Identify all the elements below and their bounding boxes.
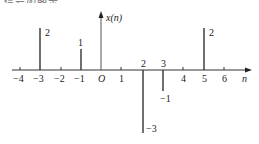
tick-label-p5: 5 — [202, 74, 207, 84]
y-axis-label: x(n) — [106, 13, 122, 23]
tick-label-m3: −3 — [33, 74, 44, 84]
tick-label-origin: O — [98, 74, 105, 84]
value-label-n-3: −1 — [160, 94, 171, 104]
tick-label-m1: −1 — [74, 74, 85, 84]
value-label-n-5: 2 — [209, 28, 214, 38]
value-label-n-minus-3: 2 — [45, 28, 50, 38]
value-label-n-minus-1: 1 — [78, 38, 83, 48]
tick-label-m4: −4 — [13, 74, 24, 84]
tick-label-m2: −2 — [54, 74, 65, 84]
x-axis-arrow-icon — [245, 68, 252, 73]
tick-label-p6: 6 — [222, 74, 227, 84]
x-axis-label: n — [242, 74, 247, 84]
tick-label-p4: 4 — [181, 74, 186, 84]
y-axis-arrow-icon — [99, 11, 104, 18]
tick-label-p1: 1 — [119, 74, 124, 84]
value-label-n-2: −3 — [146, 124, 157, 134]
stem-plot — [0, 0, 259, 144]
tick-label-p3: 3 — [161, 59, 166, 69]
tick-label-p2: 2 — [141, 59, 146, 69]
